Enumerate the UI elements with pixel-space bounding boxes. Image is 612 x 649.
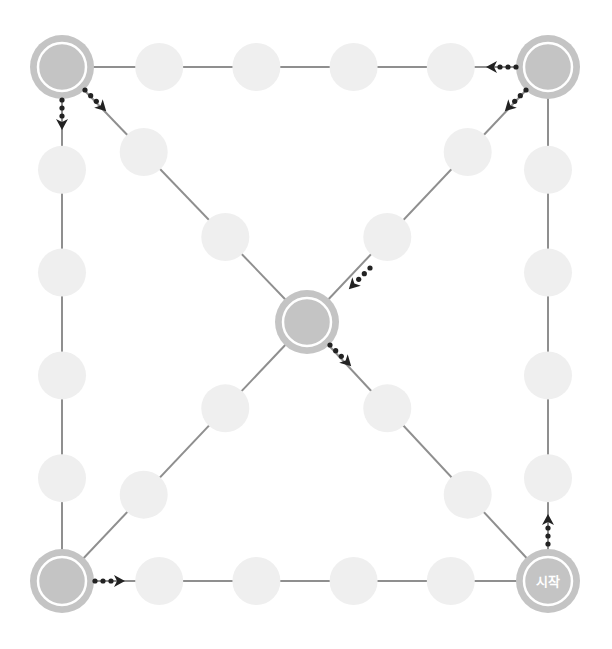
small-node (524, 454, 572, 502)
arrow-dot (339, 354, 344, 359)
arrow-dot (367, 265, 372, 270)
edge-diag-tr-center (307, 67, 548, 322)
small-node (232, 557, 280, 605)
arrow-dot (523, 87, 528, 92)
arrow-dot (356, 277, 361, 282)
direction-arrow (92, 575, 125, 587)
arrow-dot (513, 64, 518, 69)
small-node (38, 249, 86, 297)
arrow-dot (545, 525, 550, 530)
small-node (201, 213, 249, 261)
arrow-dot (92, 578, 97, 583)
arrow-dot (505, 64, 510, 69)
major-node-bottom-left (30, 549, 94, 613)
arrow-dot (59, 113, 64, 118)
small-node (232, 43, 280, 91)
small-node (524, 249, 572, 297)
edge-diag-tl-center (62, 67, 307, 322)
edge-diag-center-br (307, 322, 548, 581)
small-node (330, 557, 378, 605)
arrow-dot (497, 64, 502, 69)
arrow-dot (518, 93, 523, 98)
direction-arrow (56, 97, 68, 130)
small-node (444, 471, 492, 519)
arrow-dot (100, 578, 105, 583)
arrow-dot (512, 99, 517, 104)
arrow-dot (59, 105, 64, 110)
small-node (201, 384, 249, 432)
arrow-dot (333, 348, 338, 353)
small-node (135, 557, 183, 605)
arrow-dot (88, 93, 93, 98)
edge-diag-center-bl (62, 322, 307, 581)
arrow-dot (362, 271, 367, 276)
direction-arrow (327, 342, 351, 366)
game-board-diagram: 시작 (0, 0, 612, 649)
arrow-dot (545, 533, 550, 538)
direction-arrow (486, 61, 519, 73)
small-node (427, 557, 475, 605)
small-node (135, 43, 183, 91)
arrow-dot (82, 87, 87, 92)
small-node (363, 213, 411, 261)
small-node (444, 128, 492, 176)
small-node (427, 43, 475, 91)
small-node (524, 146, 572, 194)
direction-arrow (542, 514, 554, 547)
small-node (120, 128, 168, 176)
arrow-dot (94, 99, 99, 104)
small-node (38, 351, 86, 399)
arrow-dot (327, 342, 332, 347)
small-node (524, 351, 572, 399)
small-node (38, 454, 86, 502)
start-label: 시작 (536, 574, 560, 589)
small-node (38, 146, 86, 194)
major-node-outer (30, 549, 94, 613)
direction-arrow (349, 265, 373, 289)
arrow-dot (545, 541, 550, 546)
small-node (120, 471, 168, 519)
arrow-dot (59, 97, 64, 102)
small-node (363, 384, 411, 432)
small-node (330, 43, 378, 91)
arrow-dot (108, 578, 113, 583)
